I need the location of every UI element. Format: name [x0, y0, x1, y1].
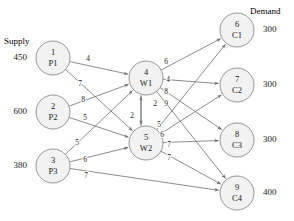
node-index-P2: 2	[51, 101, 55, 111]
node-name-C1: C1	[232, 30, 242, 40]
edge-cost-P2-W2: 5	[83, 113, 87, 122]
edge-P2-to-W2	[69, 117, 128, 137]
node-W2[interactable]: 5W2	[129, 126, 163, 160]
edge-cost-W1-C3: 8	[164, 87, 168, 96]
edge-cost-P3-C4: 7	[84, 171, 88, 180]
node-index-C4: 9	[235, 182, 239, 192]
node-C1[interactable]: 6C1	[220, 13, 254, 47]
edge-cost-W2-C2: 6	[160, 130, 164, 139]
edge-cost-P1-W2: 7	[78, 79, 82, 88]
edge-cost-W1-C4: 9	[164, 99, 168, 108]
edge-cost-W1-C2: 4	[166, 75, 170, 84]
edge-cost-P1-W1: 4	[86, 54, 90, 63]
node-P3[interactable]: 3P3	[36, 149, 70, 183]
node-P1[interactable]: 1P1	[36, 41, 70, 75]
supply-value-P1: 450	[14, 52, 28, 62]
demand-value-C1: 300	[263, 24, 277, 34]
demand-value-C4: 400	[263, 187, 277, 197]
edge-P3-to-C4	[70, 168, 219, 190]
edge-W1-to-C2	[163, 79, 219, 83]
node-name-P2: P2	[49, 112, 58, 122]
supply-value-P3: 380	[14, 160, 28, 170]
node-name-C2: C2	[232, 85, 242, 95]
network-svg: 1P12P23P34W15W26C17C28C39C4 447788555566…	[0, 0, 294, 221]
node-name-P3: P3	[49, 166, 58, 176]
network-diagram-root: 1P12P23P34W15W26C17C28C39C4 447788555566…	[0, 0, 294, 221]
node-index-W2: 5	[144, 132, 148, 142]
edge-cost-P3-W1: 5	[75, 138, 79, 147]
node-name-P1: P1	[49, 58, 58, 68]
node-name-C4: C4	[232, 193, 243, 203]
node-name-C3: C3	[232, 140, 242, 150]
edge-cost-W1-C1: 6	[164, 57, 168, 66]
edge-P3-to-W2	[70, 147, 129, 161]
edge-W1-to-C3	[160, 88, 222, 130]
edge-W1-to-C1	[161, 39, 221, 70]
edge-cost-P3-W2: 6	[83, 155, 87, 164]
nodes-layer: 1P12P23P34W15W26C17C28C39C4	[36, 13, 254, 210]
demand-value-C2: 300	[263, 79, 277, 89]
node-index-C3: 8	[235, 129, 239, 139]
demand-header: Demand	[250, 6, 281, 16]
edge-W2-to-C3	[163, 141, 219, 143]
node-P2[interactable]: 2P2	[36, 95, 70, 129]
edge-cost-W2-W1: 2	[130, 111, 134, 120]
edge-cost-W2-C3: 7	[167, 140, 171, 149]
supply-value-P2: 600	[14, 106, 28, 116]
node-index-P1: 1	[51, 47, 55, 57]
edge-cost-P2-W1: 8	[81, 95, 85, 104]
supply-header: Supply	[4, 36, 30, 46]
node-index-C2: 7	[235, 74, 239, 84]
node-name-W1: W1	[140, 78, 152, 88]
node-C2[interactable]: 7C2	[220, 68, 254, 102]
node-C4[interactable]: 9C4	[220, 176, 254, 210]
node-index-C1: 6	[235, 19, 239, 29]
node-C3[interactable]: 8C3	[220, 123, 254, 157]
demand-value-C3: 300	[263, 134, 277, 144]
edge-cost-W2-C4: 7	[167, 153, 171, 162]
node-index-P3: 3	[51, 155, 55, 165]
edge-cost-W1-W2: 2	[153, 99, 157, 108]
node-W1[interactable]: 4W1	[129, 61, 163, 95]
node-name-W2: W2	[140, 143, 152, 153]
edge-P1-to-W1	[70, 62, 128, 75]
edge-cost-W2-C1: 5	[157, 120, 161, 129]
